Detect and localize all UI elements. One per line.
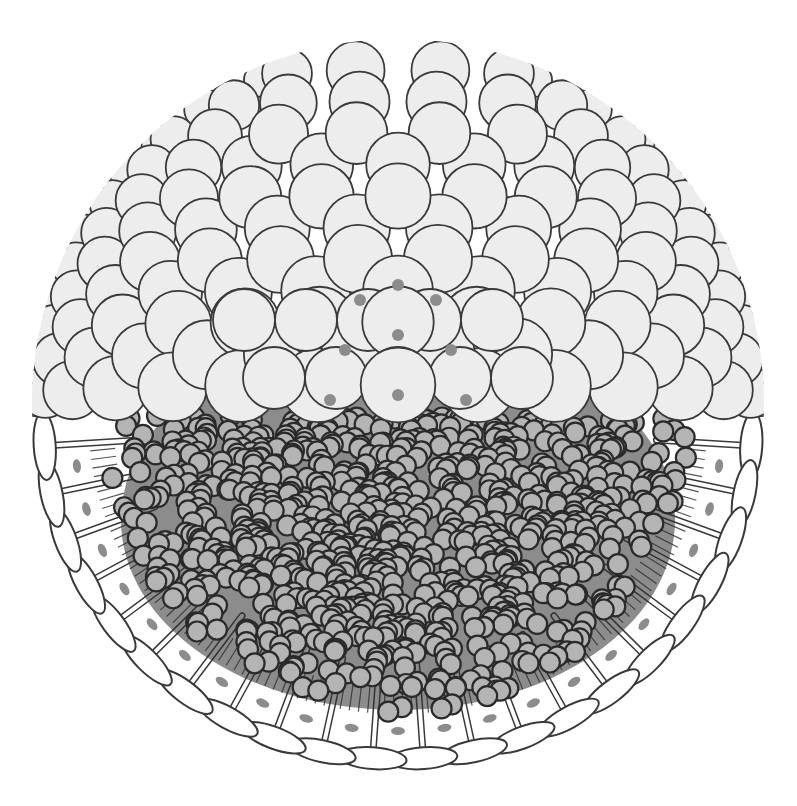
- cytoplasm-blob: [525, 696, 541, 709]
- yolk-granule: [566, 585, 586, 605]
- cytoplasm-blob: [566, 675, 582, 689]
- yolk-granule: [675, 427, 695, 447]
- yolk-granule: [653, 421, 673, 441]
- yolk-granule: [477, 686, 497, 706]
- interstitial-dot: [324, 394, 336, 406]
- interstitial-dot: [460, 394, 472, 406]
- yolk-granule: [146, 571, 166, 591]
- yolk-granule: [425, 679, 445, 699]
- yolk-granule: [547, 588, 567, 608]
- interstitial-dot: [339, 344, 351, 356]
- interstitial-dot: [392, 389, 404, 401]
- cytoplasm-blob: [81, 501, 93, 517]
- cytoplasm-blob: [482, 713, 498, 725]
- interstitial-dot: [430, 294, 442, 306]
- interstitial-dot: [392, 329, 404, 341]
- cytoplasm-blob: [687, 542, 700, 558]
- yolk-granule: [350, 667, 370, 687]
- yolk-granule: [380, 676, 400, 696]
- yolk-granule: [493, 615, 513, 635]
- cytoplasm-blob: [704, 501, 716, 517]
- yolk-granule: [432, 698, 452, 718]
- embryo-illustration: [0, 0, 797, 806]
- cytoplasm-blob: [72, 459, 82, 474]
- blastomere-cell: [243, 347, 305, 409]
- blastomere-cap: [15, 41, 781, 422]
- yolk-granule: [518, 529, 538, 549]
- yolk-granule: [207, 620, 227, 640]
- embryo-svg: [0, 0, 797, 806]
- yolk-granule: [631, 537, 651, 557]
- cytoplasm-blob: [664, 581, 678, 597]
- yolk-granule: [325, 641, 345, 661]
- cytoplasm-blob: [145, 616, 160, 632]
- cytoplasm-blob: [298, 713, 314, 725]
- yolk-granule: [102, 468, 122, 488]
- yolk-granule: [458, 586, 478, 606]
- cytoplasm-blob: [714, 459, 724, 474]
- yolk-granule: [466, 557, 486, 577]
- yolk-granule: [519, 653, 539, 673]
- blastomere-cell: [365, 163, 430, 228]
- interstitial-dot: [445, 344, 457, 356]
- yolk-granule: [658, 493, 678, 513]
- blastomere-cell: [491, 347, 553, 409]
- yolk-granule: [130, 462, 150, 482]
- cytoplasm-blob: [117, 581, 131, 597]
- yolk-granule: [402, 677, 422, 697]
- blastomere-cell: [361, 348, 436, 423]
- cytoplasm-blob: [96, 542, 109, 558]
- cytoplasm-blob: [255, 696, 271, 709]
- blastomere-cell: [213, 289, 275, 351]
- yolk-granule: [163, 588, 183, 608]
- yolk-granule: [245, 653, 265, 673]
- blastomere-cell: [461, 289, 523, 351]
- yolk-granule: [187, 586, 207, 606]
- cytoplasm-blob: [177, 648, 193, 663]
- blastomere-cell: [275, 289, 337, 351]
- yolk-granule: [594, 599, 614, 619]
- yolk-granule: [608, 554, 628, 574]
- cytoplasm-blob: [603, 648, 619, 663]
- yolk-granule: [187, 622, 207, 642]
- yolk-granule: [308, 681, 328, 701]
- blastomere-cell: [429, 347, 491, 409]
- blastomere-cell: [305, 347, 367, 409]
- cytoplasm-blob: [636, 616, 651, 632]
- cytoplasm-blob: [214, 675, 230, 689]
- cytoplasm-blob: [437, 723, 452, 733]
- yolk-granule: [643, 514, 663, 534]
- yolk-granule: [239, 577, 259, 597]
- yolk-granule: [540, 652, 560, 672]
- interstitial-dot: [354, 294, 366, 306]
- cytoplasm-blob: [344, 723, 359, 733]
- interstitial-dot: [392, 279, 404, 291]
- yolk-granule: [527, 614, 547, 634]
- cytoplasm-blob: [391, 727, 405, 735]
- yolk-granule: [378, 702, 398, 722]
